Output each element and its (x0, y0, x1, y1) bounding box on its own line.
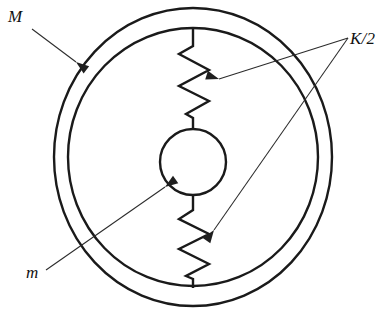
lower-spring (179, 195, 209, 288)
leader-line-inner-mass (46, 187, 165, 270)
upper-spring (179, 29, 209, 129)
label-inner-mass: m (26, 263, 38, 282)
label-spring-stiffness: K/2 (349, 29, 375, 48)
diagram-canvas: Mass m suspended inside annular mass M b… (0, 0, 389, 331)
leader-line-outer-mass (32, 29, 76, 62)
outer-ring-outline (54, 8, 332, 306)
spring-mass-diagram: Mass m suspended inside annular mass M b… (0, 0, 389, 331)
label-outer-mass: M (7, 7, 23, 26)
inner-ring-outline (68, 28, 318, 286)
